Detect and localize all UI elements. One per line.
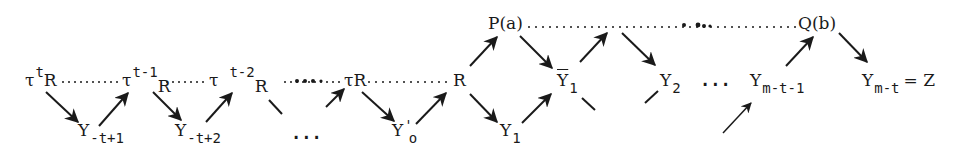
arrow — [470, 37, 497, 66]
node-Y-1: Y1 — [500, 122, 521, 139]
R-symbol: R — [158, 76, 171, 96]
edge-stub — [582, 98, 595, 110]
arrow — [522, 94, 551, 123]
node-Q-b: Q(b) — [798, 15, 836, 32]
tau-symbol: τ — [122, 70, 131, 90]
subscript: -t+1 — [90, 130, 124, 146]
edge-stub — [269, 100, 282, 114]
edge-stub — [645, 91, 658, 103]
subscript: 1 — [569, 80, 577, 96]
ellipsis-bottom: ... — [291, 125, 322, 142]
node-Y-neg-t-1: Y-t+1 — [78, 122, 124, 139]
subscript: 1 — [512, 130, 520, 146]
subscript: -t+2 — [187, 130, 221, 146]
node-tau-t-R: τtR — [25, 72, 57, 89]
node-Y-m-t-1: Ym-t-1 — [750, 72, 804, 89]
equals-Z: = Z — [904, 70, 935, 90]
ellipsis-middle: ... — [700, 72, 731, 89]
node-P-a: P(a) — [488, 15, 523, 32]
arrow — [839, 33, 867, 62]
arrow — [206, 93, 232, 122]
arrow — [326, 89, 344, 107]
Y-symbol: Y — [557, 70, 568, 90]
tau-symbol: τ — [25, 70, 34, 90]
Y-symbol: Y — [500, 120, 511, 140]
node-Y-m-t: Ym-t= Z — [862, 72, 935, 89]
tau-symbol: τ — [209, 70, 218, 90]
R-symbol: R — [44, 70, 57, 90]
node-R: R — [453, 72, 466, 89]
node-Y-neg-t-2: Y-t+2 — [175, 122, 221, 139]
arrow — [46, 92, 78, 122]
arrow — [786, 37, 813, 66]
node-Y-2: Y2 — [660, 72, 681, 89]
Y-symbol: Y — [862, 70, 873, 90]
subscript: m-t-1 — [762, 80, 804, 96]
arrow — [362, 92, 394, 121]
Y-symbol: Y — [660, 70, 671, 90]
arrow — [622, 33, 655, 65]
arrow — [416, 93, 446, 124]
arrow — [520, 36, 552, 68]
Y-symbol: Y — [78, 120, 89, 140]
node-Y-bar-1: Y1 — [557, 72, 578, 89]
subscript: o — [409, 130, 417, 146]
node-tau-R: τR — [344, 72, 366, 89]
superscript: t-1 — [132, 64, 157, 80]
R-symbol: R — [255, 76, 268, 96]
path-diagram: τtR τt-1R τt-2R τR R P(a) Q(b) Y1 Y2 ...… — [0, 0, 956, 168]
Y-symbol: Y — [392, 120, 403, 140]
Y-symbol: Y — [175, 120, 186, 140]
arrow — [723, 103, 751, 133]
superscript: t — [35, 64, 43, 80]
superscript: t-2 — [229, 64, 254, 80]
arrow — [580, 33, 607, 62]
arrow — [153, 92, 181, 120]
subscript: 2 — [672, 80, 680, 96]
arrow — [470, 94, 497, 122]
node-tau-t2-R: τt-2R — [209, 72, 268, 89]
subscript: m-t — [874, 80, 899, 96]
Y-symbol: Y — [750, 70, 761, 90]
node-tau-t1-R: τt-1R — [122, 72, 171, 89]
node-Y-prime-o: Y'o — [392, 122, 417, 139]
